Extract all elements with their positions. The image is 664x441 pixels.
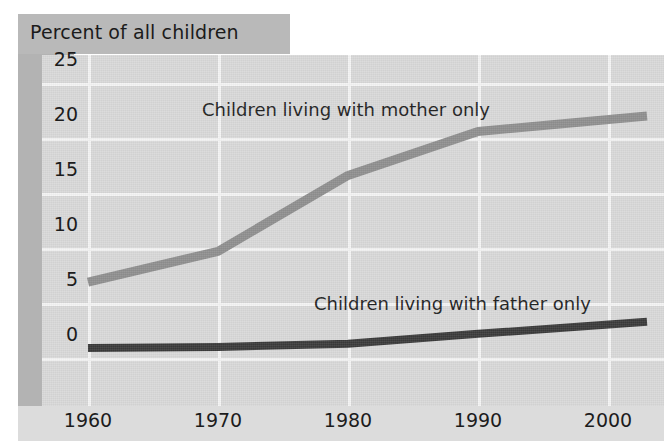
line-mother-only [88,116,647,282]
ytick-20: 20 [38,103,78,125]
xtick-1960: 1960 [48,409,128,431]
xtick-1980: 1980 [308,409,388,431]
chart-title: Percent of all children [30,21,239,43]
ytick-0: 0 [38,323,78,345]
ytick-15: 15 [38,158,78,180]
ytick-5: 5 [38,268,78,290]
chart-figure: Percent of all children Children living … [0,0,664,441]
series-label-mother: Children living with mother only [202,99,490,120]
series-label-father: Children living with father only [314,293,591,314]
ytick-25: 25 [38,48,78,70]
xtick-1990: 1990 [438,409,518,431]
xtick-2000: 2000 [568,409,648,431]
ytick-10: 10 [38,213,78,235]
line-father-only [88,322,647,348]
plot-area: Children living with mother only Childre… [42,55,664,406]
xtick-1970: 1970 [178,409,258,431]
